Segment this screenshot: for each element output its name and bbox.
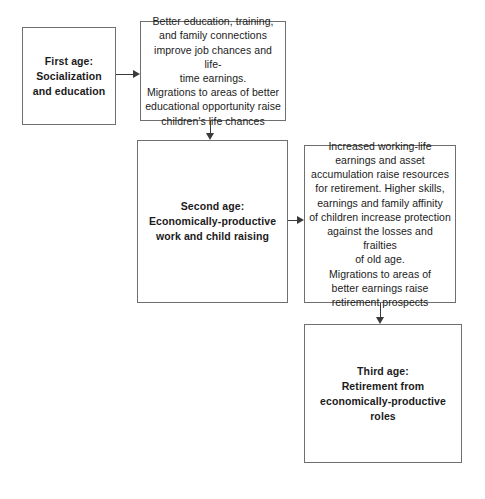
node-third-age: Third age: Retirement from economically-… <box>304 324 462 463</box>
node-second-age-label: Second age: Economically-productive work… <box>138 199 287 244</box>
node-second-age-detail-label: Increased working-life earnings and asse… <box>305 139 455 309</box>
edge-first-detail-to-second-age <box>206 121 215 142</box>
edge-second-detail-to-third-age <box>376 303 385 326</box>
node-second-age: Second age: Economically-productive work… <box>137 140 288 303</box>
node-first-age-detail-label: Better education, training, and family c… <box>141 14 285 128</box>
flowchart-diagram: First age: Socialization and education B… <box>0 0 485 499</box>
arrow-right-icon <box>133 70 140 78</box>
arrow-down-icon <box>376 317 384 324</box>
node-first-age-detail: Better education, training, and family c… <box>140 21 286 121</box>
node-third-age-label: Third age: Retirement from economically-… <box>305 364 461 424</box>
arrow-right-icon <box>297 216 304 224</box>
node-first-age: First age: Socialization and education <box>22 27 116 125</box>
edge-first-age-to-first-detail <box>116 70 142 79</box>
node-first-age-label: First age: Socialization and education <box>23 54 115 99</box>
arrow-down-icon <box>206 133 214 140</box>
node-second-age-detail: Increased working-life earnings and asse… <box>304 145 456 303</box>
